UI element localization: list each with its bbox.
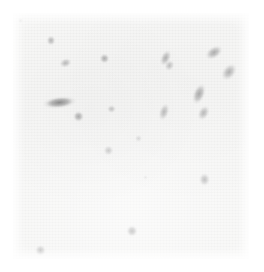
chromosome-signal [95,49,114,68]
chromosome-signal [185,94,222,133]
signal-core [148,39,185,79]
signal-core [51,49,79,75]
chromosome-signal [156,52,183,80]
signal-core [99,141,118,160]
chromosome-signal [121,220,144,243]
chromosome-signal [146,92,181,133]
signal-core [207,49,249,96]
field-edge-feather [13,13,249,259]
chromosome-signal [42,31,60,50]
signal-core [68,106,89,127]
chromosome-signal [25,77,94,126]
chromosome-signal [132,132,145,145]
chromosome-signal [68,106,89,127]
chromosome-signal [141,173,151,183]
micrograph-field [13,13,249,259]
illumination-vignette [13,13,249,259]
signal-core [25,77,94,126]
signal-core [103,101,120,117]
chromosome-signal [51,49,79,75]
signal-core [191,31,237,75]
signal-core [42,31,60,50]
signal-core [193,167,216,192]
signal-core [16,16,26,26]
chromosome-signal [193,167,216,192]
chromosome-signal [103,101,120,117]
signal-core [156,52,183,80]
signal-core [95,49,114,68]
chromosome-signal [176,69,221,120]
chromosome-signal [99,141,118,160]
chromosome-signal [191,31,237,75]
figure-root [0,0,264,272]
signal-core [132,132,145,145]
chromosome-signal [207,49,249,96]
signal-core [141,173,151,183]
chromosome-signal [30,240,51,259]
signal-core [121,220,144,243]
chromosome-signal [16,16,26,26]
signal-core [185,94,222,133]
signal-core [146,92,181,133]
film-grain-texture [13,13,249,259]
signal-core [30,240,51,259]
signal-core [176,69,221,120]
chromosome-signal [148,39,185,79]
